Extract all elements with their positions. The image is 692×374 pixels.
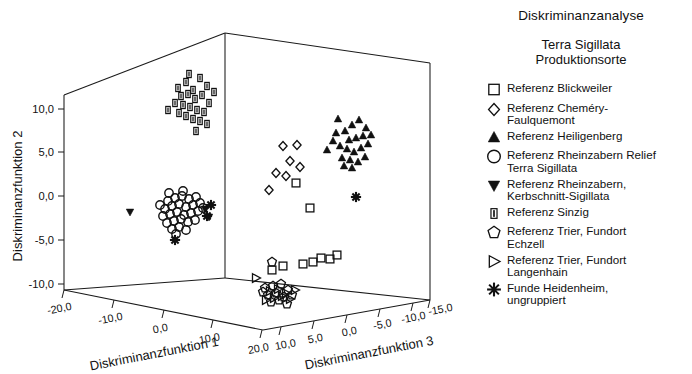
data-point (166, 106, 170, 113)
data-point (195, 106, 199, 113)
y-tick-label-4: -10,0 (29, 278, 55, 290)
data-point (317, 254, 325, 262)
data-point (332, 129, 339, 136)
data-point (205, 120, 209, 127)
data-point (184, 78, 188, 85)
legend-item-4: Referenz Rheinzabern, Kerbschnitt-Sigill… (484, 177, 692, 203)
x-tick-2 (162, 310, 164, 318)
data-point (329, 137, 336, 144)
data-point (187, 70, 191, 77)
x-tick-1 (112, 300, 114, 308)
z-tick-3 (378, 309, 380, 317)
data-point (212, 88, 216, 95)
axes-box-3d (64, 33, 430, 330)
data-point (193, 95, 197, 102)
box-edge-floor-back-right (225, 278, 430, 300)
circle-open-icon (484, 148, 504, 165)
data-point (184, 112, 188, 119)
data-point (202, 211, 212, 221)
legend-subtitle-line1: Terra Sigillata (470, 37, 692, 52)
triangle-right-open-icon (484, 253, 504, 270)
data-point (345, 136, 352, 143)
legend-item-5: Referenz Sinzig (484, 205, 692, 222)
data-point (346, 156, 353, 163)
data-point (296, 163, 304, 172)
data-point (198, 74, 202, 81)
data-point (191, 115, 195, 122)
z-axis: 10,0 5,0 0,0 -5,0 -10,0 -15,0 Diskrimina… (274, 300, 454, 372)
z-tick-label-5: -15,0 (427, 301, 453, 317)
data-point (265, 186, 273, 195)
data-point (165, 189, 173, 197)
x-tick-3 (211, 320, 213, 328)
z-axis-title: Diskriminanzfunktion 3 (304, 333, 435, 373)
data-point (361, 153, 368, 160)
data-points-layer (126, 70, 374, 307)
z-tick-label-3: -5,0 (372, 316, 393, 331)
chart-page: 10,0 5,0 0,0 -5,0 -10,0 Diskriminanzfunk… (0, 0, 692, 374)
legend-item-3: Referenz Rheinzabern Relief Terra Sigill… (484, 148, 692, 174)
y-tick-label-3: -5,0 (35, 234, 54, 246)
data-point (323, 146, 330, 153)
y-axis-title: Diskriminanzfunktion 2 (10, 131, 25, 262)
legend-item-1: Referenz Cheméry- Faulquemont (484, 101, 692, 127)
diamond-open-icon (484, 101, 504, 118)
z-tick-2 (345, 315, 347, 323)
legend-item-2: Referenz Heiligenberg (484, 129, 692, 146)
data-point (194, 127, 198, 134)
legend-item-8: Funde Heidenheim, ungruppiert (484, 281, 692, 307)
triangle-up-filled-icon (484, 129, 504, 146)
data-point (309, 258, 317, 266)
box-edge-back-left-top (64, 33, 225, 95)
data-point (334, 115, 341, 122)
y-tick-label-1: 5,0 (38, 146, 54, 158)
data-point (299, 260, 307, 268)
triangle-down-filled-icon (484, 177, 504, 194)
z-tick-0 (279, 327, 281, 335)
data-point (200, 91, 204, 98)
data-point (191, 86, 195, 93)
legend-item-0: Referenz Blickweiler (484, 81, 692, 98)
data-point (179, 187, 187, 195)
data-point (202, 108, 206, 115)
scatter-plot-3d: 10,0 5,0 0,0 -5,0 -10,0 Diskriminanzfunk… (0, 0, 470, 374)
series-2 (323, 115, 374, 171)
data-point (354, 158, 361, 165)
series-3 (156, 187, 207, 238)
data-point (355, 116, 362, 123)
pentagon-open-icon (484, 224, 504, 241)
data-point (336, 142, 343, 149)
data-point (186, 90, 190, 97)
legend-item-label: Referenz Heiligenberg (507, 129, 622, 142)
z-tick-label-2: 0,0 (341, 324, 358, 339)
x-tick-label-4: 20,0 (247, 340, 270, 356)
data-point (268, 257, 277, 265)
data-point (282, 172, 290, 181)
data-point (268, 266, 276, 274)
data-point (279, 262, 287, 270)
series-5 (166, 70, 216, 134)
data-point (359, 132, 366, 139)
legend-panel: Diskriminanzanalyse Terra Sigillata Prod… (470, 0, 692, 374)
data-point (341, 127, 348, 134)
data-point (338, 154, 345, 161)
legend-item-label: Referenz Cheméry- Faulquemont (507, 101, 608, 127)
data-point (348, 121, 355, 128)
legend-item-label: Referenz Trier, Fundort Echzell (507, 224, 626, 250)
data-point (351, 192, 361, 202)
x-axis-title: Diskriminanzfunktion 1 (89, 334, 220, 374)
series-0 (268, 179, 341, 274)
data-point (279, 142, 287, 151)
data-point (350, 148, 357, 155)
z-tick-label-1: 5,0 (307, 331, 324, 346)
data-point (286, 157, 294, 166)
y-tick-label-2: 0,0 (38, 190, 54, 202)
data-point (188, 103, 192, 110)
legend-item-label: Referenz Trier, Fundort Langenhain (507, 253, 626, 279)
data-point (205, 82, 209, 89)
data-point (176, 84, 180, 91)
y-axis: 10,0 5,0 0,0 -5,0 -10,0 Diskriminanzfunk… (10, 103, 64, 290)
data-point (182, 226, 190, 234)
data-point (206, 200, 216, 210)
z-tick-label-0: 10,0 (274, 336, 297, 352)
